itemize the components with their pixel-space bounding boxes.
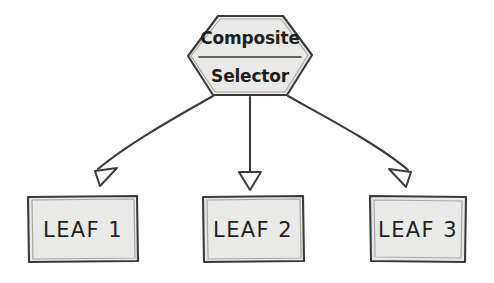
- arrowhead-left: [95, 168, 117, 186]
- leaf-1-label: LEAF 1: [43, 218, 123, 242]
- leaf-2-label: LEAF 2: [213, 218, 293, 242]
- connector-line-left: [98, 96, 213, 169]
- root-label-line2: Selector: [211, 66, 290, 86]
- arrowhead-right: [389, 169, 411, 187]
- node-leaf-3[interactable]: LEAF 3: [370, 196, 466, 262]
- leaf-3-label: LEAF 3: [378, 218, 458, 242]
- node-leaf-1[interactable]: LEAF 1: [28, 196, 138, 262]
- connector-root-to-leaf1: [95, 96, 213, 186]
- node-composite-selector[interactable]: Composite Selector: [188, 16, 312, 95]
- connector-line-right: [288, 96, 408, 170]
- connector-root-to-leaf3: [288, 96, 411, 187]
- diagram-canvas: Composite Selector LEAF 1 LEAF 2 LEAF 3: [0, 0, 494, 283]
- root-label-line1: Composite: [200, 28, 300, 48]
- node-leaf-2[interactable]: LEAF 2: [203, 196, 304, 262]
- connector-root-to-leaf2: [239, 97, 261, 190]
- arrowhead-middle: [239, 172, 261, 190]
